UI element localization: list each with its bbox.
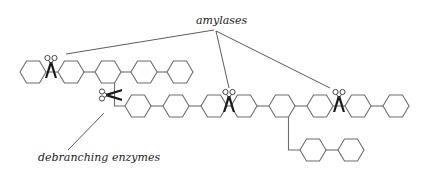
glucose-ring: [338, 139, 364, 161]
glucose-ring: [163, 95, 189, 117]
amylases-label: amylases: [196, 14, 247, 27]
amylase-leader-lines: [66, 30, 330, 88]
debranching-enzymes-label: debranching enzymes: [38, 151, 160, 164]
glucose-ring: [20, 61, 46, 83]
glucose-ring: [125, 95, 151, 117]
branch-link-top: [115, 83, 126, 106]
amylase-scissors-icon: [45, 55, 57, 78]
glucose-ring: [307, 95, 333, 117]
amylase-scissors-icon: [223, 89, 235, 112]
debranching-scissors-icon: [99, 89, 122, 101]
glucose-ring: [58, 61, 84, 83]
debranching-leader-line: [68, 113, 104, 150]
main-glucose-chain: [125, 95, 409, 117]
top-glucose-chain: [20, 61, 193, 83]
glucose-ring: [95, 61, 121, 83]
glucose-ring: [383, 95, 409, 117]
glucose-ring: [167, 61, 193, 83]
glucose-ring: [269, 95, 295, 117]
amylase-scissors-icon: [333, 89, 345, 112]
glucose-ring: [345, 95, 371, 117]
glucose-ring: [231, 95, 257, 117]
glucose-ring: [131, 61, 157, 83]
glucose-ring: [201, 95, 227, 117]
side-glucose-branch: [289, 117, 365, 161]
glucose-ring: [300, 139, 326, 161]
